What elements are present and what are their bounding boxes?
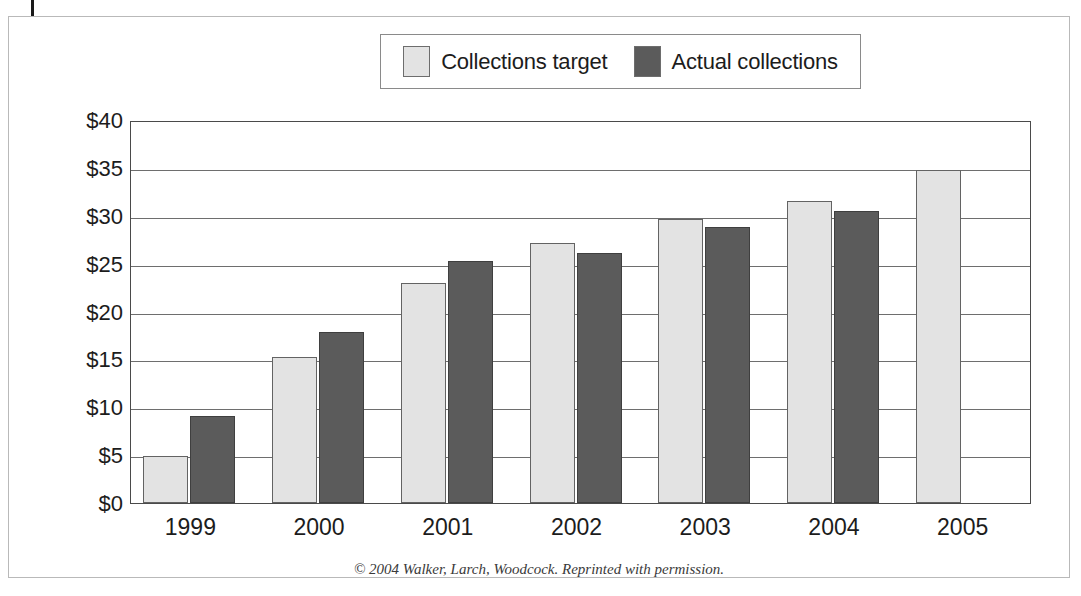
- x-tick-label-2005: 2005: [937, 514, 988, 541]
- x-tick-label-2003: 2003: [680, 514, 731, 541]
- y-tick-label: $10: [61, 395, 123, 421]
- bar-2004-actual-collections: [834, 211, 879, 503]
- bar-2001-actual-collections: [448, 261, 493, 503]
- figure-page: Collections target Actual collections Mi…: [0, 0, 1081, 596]
- plot-area: [130, 121, 1031, 504]
- legend-entry-collections-target: Collections target: [403, 46, 607, 77]
- y-tick-label: $35: [61, 156, 123, 182]
- x-tick-label-2001: 2001: [422, 514, 473, 541]
- y-axis-title: Millions: [0, 172, 3, 245]
- bar-1999-collections-target: [143, 456, 188, 503]
- figure-credit: © 2004 Walker, Larch, Woodcock. Reprinte…: [9, 561, 1069, 578]
- bar-2001-collections-target: [401, 283, 446, 503]
- y-tick-label: $5: [61, 443, 123, 469]
- bar-2000-actual-collections: [319, 332, 364, 503]
- x-tick-label-2000: 2000: [293, 514, 344, 541]
- x-axis-tick-labels: 1999200020012002200320042005: [130, 514, 1031, 548]
- y-tick-label: $20: [61, 300, 123, 326]
- bar-2003-actual-collections: [705, 227, 750, 503]
- x-tick-label-1999: 1999: [165, 514, 216, 541]
- y-tick-label: $25: [61, 252, 123, 278]
- bar-2004-collections-target: [787, 201, 832, 503]
- bar-2005-collections-target: [916, 170, 961, 503]
- bar-2002-collections-target: [530, 243, 575, 503]
- bars-layer: [131, 122, 1030, 503]
- figure-frame: Collections target Actual collections Mi…: [8, 16, 1070, 578]
- y-tick-label: $30: [61, 204, 123, 230]
- bar-2002-actual-collections: [577, 253, 622, 503]
- y-tick-label: $40: [61, 108, 123, 134]
- x-tick-label-2002: 2002: [551, 514, 602, 541]
- legend-label-collections-target: Collections target: [441, 49, 607, 75]
- y-tick-label: $0: [61, 491, 123, 517]
- x-tick-label-2004: 2004: [808, 514, 859, 541]
- chart-legend: Collections target Actual collections: [380, 34, 861, 89]
- bar-2003-collections-target: [658, 219, 703, 503]
- legend-swatch-actual-collections: [634, 46, 661, 77]
- y-tick-label: $15: [61, 347, 123, 373]
- bar-2000-collections-target: [272, 357, 317, 503]
- legend-swatch-collections-target: [403, 46, 430, 77]
- legend-entry-actual-collections: Actual collections: [634, 46, 838, 77]
- legend-label-actual-collections: Actual collections: [672, 49, 838, 75]
- bar-1999-actual-collections: [190, 416, 235, 503]
- y-axis-tick-labels: $0$5$10$15$20$25$30$35$40: [53, 121, 123, 504]
